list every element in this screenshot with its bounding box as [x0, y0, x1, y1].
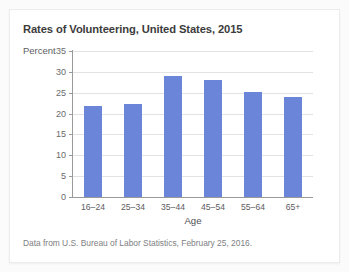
y-axis-tick-label: 35 — [56, 46, 66, 56]
y-axis-title: Percent — [23, 45, 56, 56]
bar[interactable] — [284, 97, 302, 197]
x-axis-tick-label: 16–24 — [81, 202, 105, 212]
x-axis-tick-label: 55–64 — [241, 202, 265, 212]
chart-card: Rates of Volunteering, United States, 20… — [9, 9, 340, 263]
source-note: Data from U.S. Bureau of Labor Statistic… — [23, 238, 252, 248]
bar-series — [73, 51, 313, 197]
bar[interactable] — [164, 76, 182, 197]
x-axis-title: Age — [184, 215, 201, 226]
y-axis-tick-label: 20 — [56, 109, 66, 119]
y-axis-tick-label: 25 — [56, 88, 66, 98]
x-axis-tick-label: 25–34 — [121, 202, 145, 212]
chart-title: Rates of Volunteering, United States, 20… — [23, 23, 242, 35]
bar[interactable] — [84, 106, 102, 197]
x-axis-tick-label: 45–54 — [201, 202, 225, 212]
y-axis-tick-label: 10 — [56, 150, 66, 160]
screenshot-root: Rates of Volunteering, United States, 20… — [0, 0, 349, 272]
y-axis-tick-label: 30 — [56, 67, 66, 77]
y-axis-tick-label: 15 — [56, 129, 66, 139]
y-axis-tick-label: 0 — [61, 192, 66, 202]
plot-inner: 05101520253035 16–2425–3435–4445–5455–64… — [73, 51, 313, 197]
bar[interactable] — [204, 80, 222, 197]
x-axis-line — [72, 197, 313, 198]
bar[interactable] — [124, 104, 142, 197]
bar[interactable] — [244, 92, 262, 197]
plot-area: 05101520253035 16–2425–3435–4445–5455–64… — [73, 51, 313, 197]
x-axis-tick-label: 65+ — [286, 202, 301, 212]
x-axis-tick-label: 35–44 — [161, 202, 185, 212]
y-axis-tick-label: 5 — [61, 171, 66, 181]
